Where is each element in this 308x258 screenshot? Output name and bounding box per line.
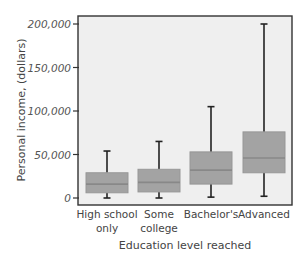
y-tick-label: 200,000 xyxy=(28,18,72,30)
x-axis: High schoolonlySomecollegeBachelor'sAdva… xyxy=(76,208,290,234)
box-plot-chart: 050,000100,000150,000200,000 High school… xyxy=(0,0,308,258)
x-category-label: High school xyxy=(76,208,137,220)
iqr-box xyxy=(138,169,180,192)
y-tick-label: 150,000 xyxy=(28,62,72,74)
y-tick-label: 100,000 xyxy=(28,105,72,117)
y-axis-title: Personal income, (dollars) xyxy=(15,39,28,182)
y-tick-label: 0 xyxy=(64,192,71,204)
x-category-label: Advanced xyxy=(238,208,290,220)
iqr-box xyxy=(243,132,285,173)
y-tick-label: 50,000 xyxy=(34,149,71,161)
iqr-box xyxy=(86,173,128,193)
x-axis-title: Education level reached xyxy=(119,239,251,252)
iqr-box xyxy=(190,152,232,184)
x-category-label: Some xyxy=(144,208,174,220)
x-category-label: college xyxy=(140,222,178,234)
x-category-label: only xyxy=(96,222,118,234)
x-category-label: Bachelor's xyxy=(184,208,239,220)
y-axis: 050,000100,000150,000200,000 xyxy=(28,18,79,204)
